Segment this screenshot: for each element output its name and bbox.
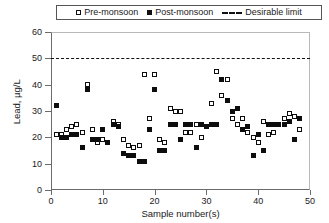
- data-point-pre-monsoon: [240, 116, 245, 121]
- data-point-post-monsoon: [95, 137, 100, 142]
- data-point-post-monsoon: [178, 137, 183, 142]
- data-point-pre-monsoon: [121, 137, 126, 142]
- data-point-post-monsoon: [297, 116, 302, 121]
- legend-entry-post-monsoon[interactable]: Post-monsoon: [147, 8, 213, 17]
- data-point-post-monsoon: [256, 132, 261, 137]
- data-point-pre-monsoon: [209, 101, 214, 106]
- data-point-pre-monsoon: [214, 69, 219, 74]
- x-tick-mark: [155, 190, 156, 195]
- data-point-post-monsoon: [152, 87, 157, 92]
- data-point-pre-monsoon: [297, 127, 302, 132]
- legend-entry-pre-monsoon[interactable]: Pre-monsoon: [76, 8, 138, 17]
- data-point-pre-monsoon: [256, 140, 261, 145]
- data-point-pre-monsoon: [245, 130, 250, 135]
- x-tick-label: 20: [140, 197, 170, 206]
- dashed-line-icon: [222, 12, 242, 14]
- data-point-pre-monsoon: [271, 130, 276, 135]
- data-point-post-monsoon: [100, 127, 105, 132]
- data-point-post-monsoon: [80, 145, 85, 150]
- legend-label-post-monsoon: Post-monsoon: [155, 8, 213, 17]
- data-point-post-monsoon: [251, 153, 256, 158]
- x-tick-label: 0: [36, 197, 66, 206]
- x-tick-mark: [206, 190, 207, 195]
- data-point-pre-monsoon: [142, 72, 147, 77]
- scatter-chart: Pre-monsoon Post-monsoon Desirable limit…: [0, 0, 329, 223]
- data-point-post-monsoon: [173, 122, 178, 127]
- legend-entry-desirable-limit[interactable]: Desirable limit: [222, 8, 302, 17]
- data-point-pre-monsoon: [178, 109, 183, 114]
- x-tick-label: 10: [88, 197, 118, 206]
- data-point-post-monsoon: [261, 148, 266, 153]
- data-point-pre-monsoon: [199, 135, 204, 140]
- x-tick-label: 50: [295, 197, 325, 206]
- x-tick-mark: [258, 190, 259, 195]
- data-point-post-monsoon: [142, 159, 147, 164]
- filled-square-icon: [147, 10, 152, 15]
- data-point-post-monsoon: [225, 98, 230, 103]
- data-point-post-monsoon: [116, 124, 121, 129]
- legend-label-pre-monsoon: Pre-monsoon: [84, 8, 138, 17]
- data-point-pre-monsoon: [90, 127, 95, 132]
- data-point-post-monsoon: [188, 122, 193, 127]
- y-tick-label: 20: [2, 133, 42, 142]
- data-point-post-monsoon: [245, 124, 250, 129]
- x-tick-label: 40: [243, 197, 273, 206]
- data-point-post-monsoon: [85, 87, 90, 92]
- data-point-post-monsoon: [131, 153, 136, 158]
- data-point-post-monsoon: [54, 103, 59, 108]
- x-tick-mark: [310, 190, 311, 195]
- x-tick-mark: [103, 190, 104, 195]
- data-point-post-monsoon: [147, 127, 152, 132]
- x-tick-label: 30: [191, 197, 221, 206]
- data-point-pre-monsoon: [85, 82, 90, 87]
- x-tick-mark: [51, 190, 52, 195]
- data-point-pre-monsoon: [219, 93, 224, 98]
- legend-label-desirable-limit: Desirable limit: [245, 8, 302, 17]
- data-point-post-monsoon: [162, 148, 167, 153]
- y-tick-label: 10: [2, 160, 42, 169]
- chart-legend: Pre-monsoon Post-monsoon Desirable limit: [56, 5, 322, 20]
- x-axis-title: Sample number(s): [51, 209, 310, 219]
- data-point-pre-monsoon: [80, 130, 85, 135]
- data-point-pre-monsoon: [147, 116, 152, 121]
- data-point-pre-monsoon: [230, 116, 235, 121]
- data-point-post-monsoon: [194, 145, 199, 150]
- data-point-pre-monsoon: [74, 122, 79, 127]
- open-square-icon: [76, 10, 81, 15]
- data-point-post-monsoon: [235, 106, 240, 111]
- data-point-post-monsoon: [219, 77, 224, 82]
- data-point-pre-monsoon: [137, 143, 142, 148]
- data-point-post-monsoon: [287, 119, 292, 124]
- data-point-post-monsoon: [292, 137, 297, 142]
- y-tick-label: 60: [2, 28, 42, 37]
- data-point-pre-monsoon: [162, 140, 167, 145]
- data-point-pre-monsoon: [235, 122, 240, 127]
- y-tick-label: 50: [2, 54, 42, 63]
- data-point-pre-monsoon: [188, 130, 193, 135]
- data-point-post-monsoon: [214, 122, 219, 127]
- data-point-post-monsoon: [74, 132, 79, 137]
- y-tick-label: 0: [2, 186, 42, 195]
- data-point-pre-monsoon: [152, 72, 157, 77]
- data-point-post-monsoon: [105, 140, 110, 145]
- data-point-pre-monsoon: [225, 77, 230, 82]
- data-points-layer: [51, 32, 310, 190]
- y-axis-title: Lead, µg/L: [12, 47, 22, 157]
